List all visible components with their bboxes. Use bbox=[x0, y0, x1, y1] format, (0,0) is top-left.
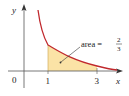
area-numerator: 2 bbox=[117, 36, 121, 44]
origin-label: 0 bbox=[12, 75, 17, 85]
annotation-dot bbox=[60, 62, 62, 64]
area-denominator: 3 bbox=[117, 45, 121, 53]
area-label: area = bbox=[81, 39, 102, 49]
tick-label-1: 1 bbox=[46, 76, 51, 86]
tick-label-3: 3 bbox=[95, 76, 100, 86]
y-axis-label: y bbox=[11, 5, 16, 15]
area-diagram: y x 0 1 3 area = 2 3 bbox=[0, 0, 129, 96]
x-axis-label: x bbox=[115, 76, 120, 86]
